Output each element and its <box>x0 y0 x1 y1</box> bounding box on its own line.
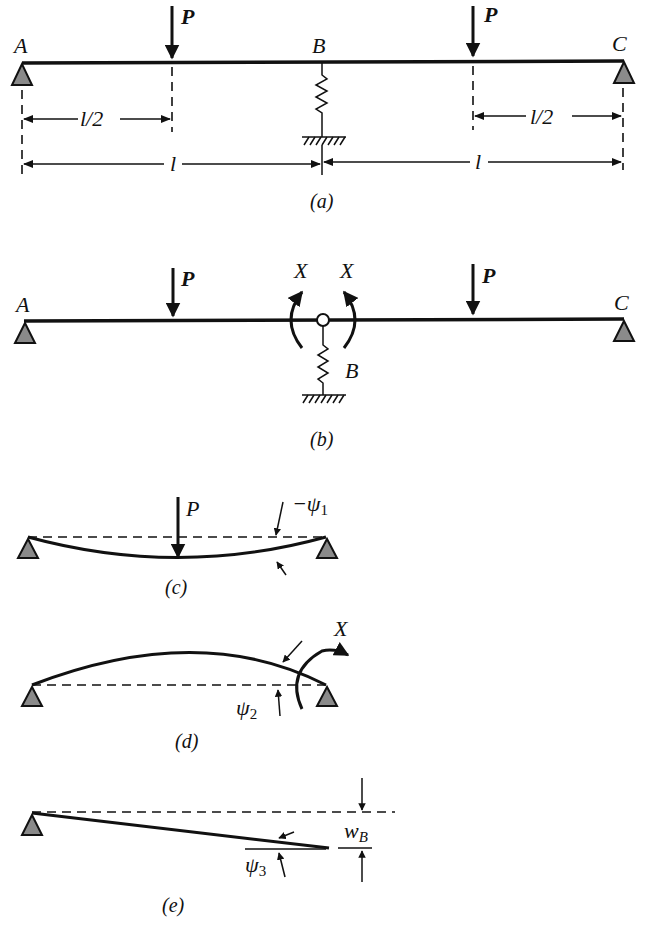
dimension-span-right: l <box>324 149 621 174</box>
rotation-arrow-top-icon <box>276 502 283 535</box>
label-psi3: ψ3 <box>245 852 266 879</box>
rotation-arrow-bottom-icon <box>279 853 285 877</box>
svg-text:l: l <box>475 149 481 174</box>
label-b: B <box>345 358 358 383</box>
hinge-b-icon <box>317 314 329 326</box>
label-psi2: ψ2 <box>236 695 257 722</box>
label-x-right: X <box>339 258 355 283</box>
label-c: C <box>612 31 627 56</box>
label-x-left: X <box>293 258 309 283</box>
label-a: A <box>14 292 30 317</box>
spring-support-b-icon <box>302 63 346 145</box>
beam-diagram: P P A B C l/2 l/2 l l (a) <box>0 0 657 937</box>
caption-b: (b) <box>310 428 334 451</box>
panel-b: P P X X A B C (b) <box>14 258 634 451</box>
pin-support-right-icon <box>317 687 337 706</box>
pin-support-left-icon <box>22 687 42 706</box>
panel-d: X ψ2 (d) <box>22 616 349 753</box>
label-c: C <box>614 290 629 315</box>
panel-e: ψ3 wB (e) <box>22 778 395 917</box>
rotation-arrow-top-icon <box>283 641 302 662</box>
svg-text:l: l <box>170 151 176 176</box>
rotated-beam <box>32 813 329 848</box>
rotation-arrow-bottom-icon <box>277 562 286 575</box>
caption-d: (d) <box>175 730 199 753</box>
label-b: B <box>312 33 325 58</box>
pin-support-c-icon <box>614 321 634 341</box>
deflected-beam <box>32 653 326 686</box>
caption-c: (c) <box>165 576 188 599</box>
pin-support-left-icon <box>22 815 42 835</box>
label-wb: wB <box>344 818 368 845</box>
pin-support-right-icon <box>317 539 337 558</box>
rotation-arrow-bottom-icon <box>278 690 280 716</box>
pin-support-c-icon <box>614 62 634 83</box>
panel-c: P −ψ1 (c) <box>18 491 337 599</box>
label-a: A <box>12 33 28 58</box>
label-psi1: −ψ1 <box>292 491 328 518</box>
caption-a: (a) <box>310 190 334 213</box>
rotation-arrow-top-icon <box>279 832 294 838</box>
dimension-span-left: l <box>24 151 320 176</box>
dimension-half-left: l/2 <box>24 106 170 131</box>
label-x: X <box>333 616 349 641</box>
label-p: P <box>185 496 199 521</box>
beam-abc <box>22 61 624 63</box>
label-p-left: P <box>180 4 195 29</box>
pin-support-a-icon <box>12 64 32 85</box>
label-p-right: P <box>481 263 496 288</box>
svg-text:l/2: l/2 <box>80 106 103 131</box>
pin-support-a-icon <box>15 323 35 343</box>
label-p-left: P <box>180 266 195 291</box>
panel-a: P P A B C l/2 l/2 l l (a) <box>12 2 634 213</box>
dimension-half-right: l/2 <box>475 104 621 129</box>
svg-text:l/2: l/2 <box>530 104 553 129</box>
spring-support-b-icon <box>302 326 346 403</box>
pin-support-left-icon <box>18 539 38 558</box>
label-p-right: P <box>483 2 498 27</box>
caption-e: (e) <box>162 894 185 917</box>
